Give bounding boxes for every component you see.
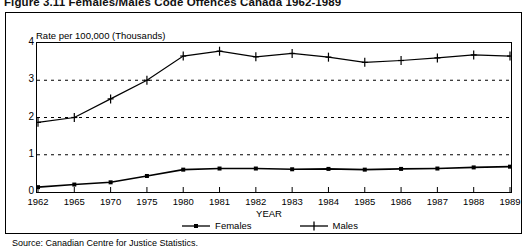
x-tick-label: 1989 (499, 196, 520, 207)
y-axis-title: Rate per 100,000 (Thousands) (36, 30, 165, 41)
data-point-females (37, 185, 40, 189)
legend-entry-females: Females (182, 220, 251, 231)
data-point-males (144, 76, 150, 85)
data-point-females (109, 180, 113, 184)
data-point-males (289, 49, 295, 58)
x-tick-label: 1986 (390, 196, 411, 207)
data-point-males (217, 47, 223, 56)
plot-area (36, 42, 512, 193)
plot-inner (37, 43, 511, 192)
y-tick-label: 0 (12, 186, 34, 196)
data-point-females (145, 174, 149, 178)
data-point-females (326, 167, 330, 171)
legend-marker-square-icon (182, 221, 210, 231)
data-point-males (398, 56, 404, 65)
x-tick-label: 1987 (427, 196, 448, 207)
x-tick-label: 1981 (209, 196, 230, 207)
figure-title: Figure 3.11 Females/Males Code Offences … (4, 0, 341, 8)
line-chart-svg (37, 43, 511, 192)
data-point-females (254, 167, 258, 171)
data-point-females (218, 167, 222, 171)
data-point-males (37, 118, 41, 127)
data-point-females (399, 167, 403, 171)
y-axis-tick-labels: 01234 (8, 42, 34, 193)
x-tick-label: 1982 (245, 196, 266, 207)
source-note: Source: Canadian Centre for Justice Stat… (12, 238, 198, 249)
data-point-females (508, 165, 511, 169)
x-tick-label: 1983 (282, 196, 303, 207)
data-point-males (434, 53, 440, 62)
x-tick-label: 1975 (136, 196, 157, 207)
data-point-males (71, 113, 77, 122)
data-point-males (471, 50, 477, 59)
data-point-females (363, 168, 367, 172)
data-point-females (290, 167, 294, 171)
data-point-males (362, 58, 368, 67)
y-tick-label: 4 (12, 37, 34, 47)
x-tick-label: 1984 (318, 196, 339, 207)
y-tick-label: 3 (12, 74, 34, 84)
data-point-females (72, 183, 76, 187)
data-point-males (325, 53, 331, 62)
x-tick-label: 1980 (173, 196, 194, 207)
x-tick-label: 1970 (100, 196, 121, 207)
data-point-males (180, 52, 186, 61)
x-tick-label: 1965 (64, 196, 85, 207)
series-line-males (38, 51, 510, 122)
data-point-females (181, 168, 185, 172)
y-tick-label: 1 (12, 149, 34, 159)
legend-entry-males: Males (300, 220, 358, 231)
x-axis-title: YEAR (0, 208, 530, 219)
x-tick-label: 1985 (354, 196, 375, 207)
data-point-males (253, 52, 259, 61)
legend-label: Females (215, 220, 251, 231)
data-point-females (435, 167, 439, 171)
legend-marker-plus-icon (300, 221, 328, 231)
x-tick-label: 1962 (27, 196, 48, 207)
x-tick-label: 1988 (463, 196, 484, 207)
data-point-males (108, 94, 114, 103)
data-point-males (507, 52, 511, 61)
data-point-females (472, 165, 476, 169)
legend-label: Males (333, 220, 358, 231)
y-tick-label: 2 (12, 112, 34, 122)
chart-legend: FemalesMales (0, 220, 530, 231)
